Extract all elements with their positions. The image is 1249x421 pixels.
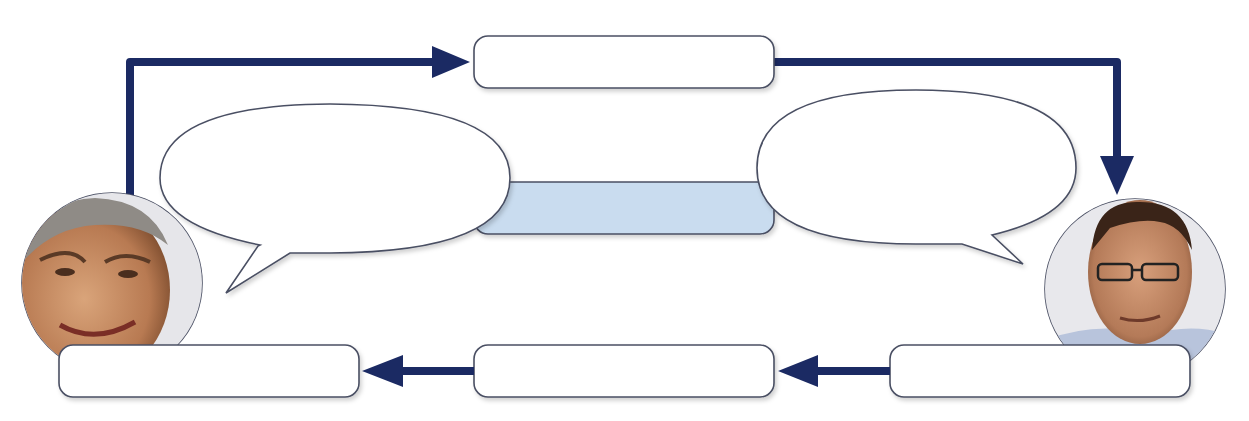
receiver-speech-bubble (757, 90, 1076, 264)
top-center-box (474, 36, 774, 88)
bottom-center-box (474, 345, 774, 397)
bottom-right-box (890, 345, 1190, 397)
arrow-feedback-right-to-center (778, 355, 890, 387)
channel-box (474, 182, 774, 234)
communication-diagram (0, 0, 1249, 421)
arrow-feedback-center-to-left (362, 355, 474, 387)
sender-speech-bubble (160, 104, 510, 293)
bottom-left-box (59, 345, 359, 397)
